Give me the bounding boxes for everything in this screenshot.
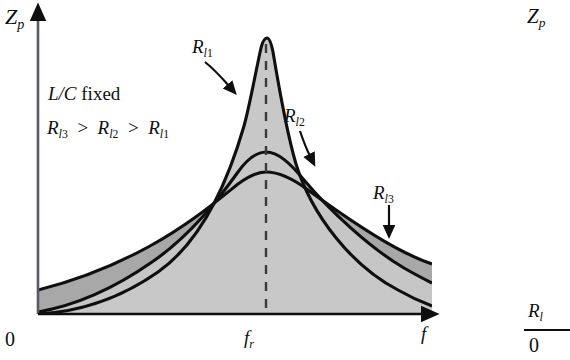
- figure-canvas: Zp L/C fixed Rl3 > Rl2 > Rl1 Rl1 Rl2 Rl3…: [0, 0, 570, 360]
- callout-arrow-rl1: [205, 62, 229, 86]
- second-figure-y-axis-label: Zp: [527, 4, 545, 31]
- x-tick-resonance: fr: [244, 327, 254, 352]
- annotation-inequality: Rl3 > Rl2 > Rl1: [47, 117, 169, 142]
- annotation-lc-fixed: L/C fixed: [48, 83, 120, 105]
- resonance-chart-svg: [0, 0, 570, 360]
- origin-label: 0: [5, 328, 15, 351]
- second-figure-origin-label: 0: [529, 334, 539, 357]
- curve-label-rl2: Rl2: [284, 105, 305, 130]
- curve-label-rl3: Rl3: [373, 182, 394, 207]
- y-axis-label: Zp: [5, 4, 24, 33]
- curve-label-rl1: Rl1: [192, 36, 213, 61]
- second-figure-x-axis-label: Rl: [528, 300, 543, 325]
- callout-arrow-rl2: [300, 131, 310, 156]
- x-axis-label: f: [421, 323, 426, 345]
- second-figure-axis-line: [524, 329, 570, 331]
